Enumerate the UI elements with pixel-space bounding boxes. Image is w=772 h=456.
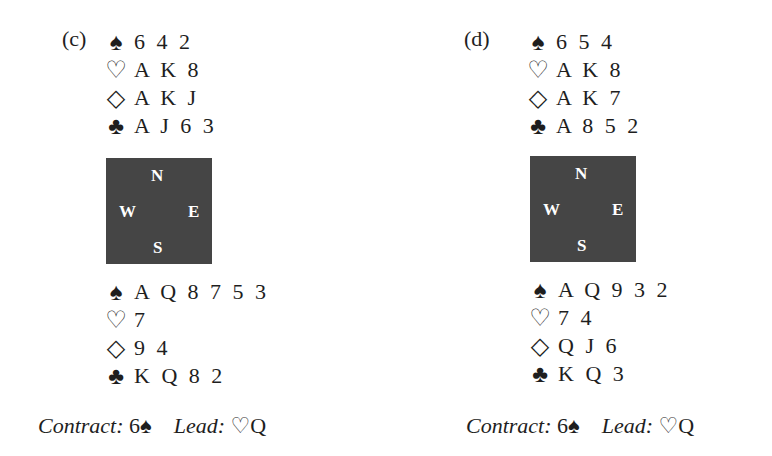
compass-north: N <box>575 164 587 184</box>
heart-icon: ♡ <box>104 56 128 84</box>
spade-icon: ♠ <box>140 413 152 438</box>
compass-box: N W E S <box>530 156 636 262</box>
diamond-icon: ◇ <box>528 332 552 360</box>
north-clubs: ♣ A 8 5 2 <box>526 112 641 140</box>
south-diamonds: ◇ 9 4 <box>104 334 269 362</box>
north-clubs: ♣ A J 6 3 <box>104 112 217 140</box>
contract-level: 6 <box>557 413 568 438</box>
south-hearts: ♡ 7 4 <box>528 304 671 332</box>
lead-label: Lead: <box>174 413 225 438</box>
lead-card: Q <box>678 413 694 438</box>
spade-icon: ♠ <box>528 276 552 304</box>
contract-level: 6 <box>129 413 140 438</box>
north-hearts: ♡ A K 8 <box>526 56 641 84</box>
south-spades: ♠ A Q 8 7 5 3 <box>104 278 269 306</box>
problem-label: (d) <box>464 26 490 52</box>
heart-icon: ♡ <box>231 413 251 438</box>
club-icon: ♣ <box>528 360 552 388</box>
north-hearts: ♡ A K 8 <box>104 56 217 84</box>
north-diamonds: ◇ A K J <box>104 84 217 112</box>
south-diamonds: ◇ Q J 6 <box>528 332 671 360</box>
contract-label: Contract: <box>466 413 552 438</box>
lead-card: Q <box>250 413 266 438</box>
heart-icon: ♡ <box>659 413 679 438</box>
heart-icon: ♡ <box>104 306 128 334</box>
club-icon: ♣ <box>104 112 128 140</box>
club-icon: ♣ <box>526 112 550 140</box>
compass-west: W <box>543 200 560 220</box>
compass-south: S <box>153 238 162 258</box>
south-hearts: ♡ 7 <box>104 306 269 334</box>
compass-north: N <box>151 166 163 186</box>
south-clubs: ♣ K Q 3 <box>528 360 671 388</box>
contract-label: Contract: <box>38 413 124 438</box>
north-hand: ♠ 6 4 2 ♡ A K 8 ◇ A K J ♣ A J 6 3 <box>104 28 217 140</box>
compass-east: E <box>188 202 199 222</box>
diamond-icon: ◇ <box>526 84 550 112</box>
club-icon: ♣ <box>104 362 128 390</box>
south-clubs: ♣ K Q 8 2 <box>104 362 269 390</box>
south-hand: ♠ A Q 8 7 5 3 ♡ 7 ◇ 9 4 ♣ K Q 8 2 <box>104 278 269 390</box>
north-spades: ♠ 6 5 4 <box>526 28 641 56</box>
spade-icon: ♠ <box>526 28 550 56</box>
compass-box: N W E S <box>106 158 212 264</box>
diamond-icon: ◇ <box>104 84 128 112</box>
spade-icon: ♠ <box>568 413 580 438</box>
north-hand: ♠ 6 5 4 ♡ A K 8 ◇ A K 7 ♣ A 8 5 2 <box>526 28 641 140</box>
south-hand: ♠ A Q 9 3 2 ♡ 7 4 ◇ Q J 6 ♣ K Q 3 <box>528 276 671 388</box>
lead-label: Lead: <box>602 413 653 438</box>
north-diamonds: ◇ A K 7 <box>526 84 641 112</box>
spade-icon: ♠ <box>104 278 128 306</box>
contract-lead-line: Contract: 6♠ Lead: ♡Q <box>38 413 266 439</box>
heart-icon: ♡ <box>526 56 550 84</box>
south-spades: ♠ A Q 9 3 2 <box>528 276 671 304</box>
north-spades: ♠ 6 4 2 <box>104 28 217 56</box>
compass-east: E <box>612 200 623 220</box>
diamond-icon: ◇ <box>104 334 128 362</box>
compass-west: W <box>119 202 136 222</box>
compass-south: S <box>577 236 586 256</box>
problem-label: (c) <box>62 26 86 52</box>
heart-icon: ♡ <box>528 304 552 332</box>
spade-icon: ♠ <box>104 28 128 56</box>
contract-lead-line: Contract: 6♠ Lead: ♡Q <box>466 413 694 439</box>
